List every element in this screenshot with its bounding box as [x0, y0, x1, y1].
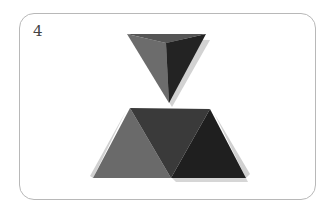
polyhedra-illustration: [0, 0, 331, 207]
top-tetrahedron: [127, 34, 210, 107]
bottom-solid: [90, 108, 250, 182]
